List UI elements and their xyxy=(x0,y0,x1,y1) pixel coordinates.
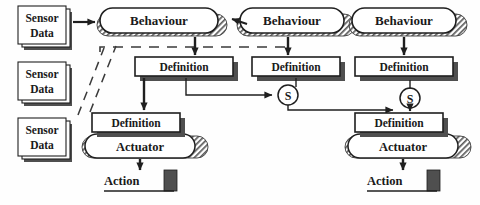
sensor-data-label-line1: Sensor xyxy=(25,124,58,136)
selector-label: S xyxy=(407,92,414,106)
dashed-inhibition-diagonals xyxy=(78,46,116,115)
sensor-data-label-line1: Sensor xyxy=(25,12,58,24)
action-block-icon xyxy=(164,170,177,191)
behaviour-label: Behaviour xyxy=(375,13,433,28)
selector-node-1: S xyxy=(186,78,298,105)
sensor-data-label-line2: Data xyxy=(30,83,54,95)
sensor-data-label-line2: Data xyxy=(30,139,54,151)
action-label: Action xyxy=(104,174,139,188)
actuator-group-left: Actuator Definition xyxy=(82,113,208,158)
definition-node-3: Definition xyxy=(355,57,458,81)
diagram-svg: Sensor Data Sensor Data Sensor Data xyxy=(0,0,480,205)
definition-node-2: Definition xyxy=(252,57,345,81)
actuator-label: Actuator xyxy=(116,140,164,154)
sensor-data-label-line1: Sensor xyxy=(25,68,58,80)
definition-label: Definition xyxy=(159,61,209,73)
action-block-icon xyxy=(427,170,440,191)
definition-label: Definition xyxy=(379,61,429,73)
actuator-label: Actuator xyxy=(379,140,427,154)
behaviour-node-2: Behaviour xyxy=(237,8,355,36)
diagram-canvas: Sensor Data Sensor Data Sensor Data xyxy=(0,0,480,205)
actuator-group-right: Actuator Definition xyxy=(345,113,471,158)
behaviour-node-1: Behaviour xyxy=(97,8,227,36)
behaviour-node-3: Behaviour xyxy=(349,8,467,36)
sensor-data-node-2: Sensor Data xyxy=(18,62,72,106)
behaviour-label: Behaviour xyxy=(263,13,321,28)
sensor-data-node-3: Sensor Data xyxy=(18,118,72,162)
definition-node-1: Definition xyxy=(135,57,238,81)
definition-label: Definition xyxy=(271,61,321,73)
selector-node-2: S xyxy=(288,80,420,111)
selector-label: S xyxy=(285,89,292,103)
definition-label: Definition xyxy=(111,117,161,129)
edge-selector1-to-selector2 xyxy=(288,105,393,110)
sensor-data-node-1: Sensor Data xyxy=(18,6,72,50)
action-node-1: Action xyxy=(104,170,177,191)
action-label: Action xyxy=(367,174,402,188)
sensor-data-label-line2: Data xyxy=(30,27,54,39)
behaviour-label: Behaviour xyxy=(130,13,188,28)
definition-label: Definition xyxy=(374,117,424,129)
action-node-2: Action xyxy=(367,170,440,191)
